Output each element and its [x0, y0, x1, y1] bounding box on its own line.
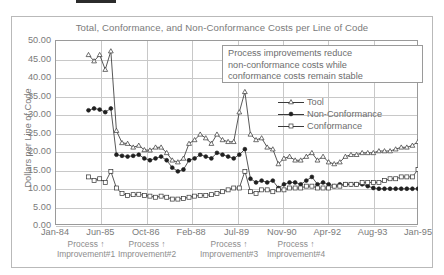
data-point-marker: [114, 128, 119, 132]
annotation-line-1: Process ↑: [200, 239, 258, 249]
x-tick-label: Jan-95: [404, 227, 432, 237]
data-point-marker: [170, 197, 174, 201]
annotation-line-2: Improvement#3: [200, 249, 258, 259]
data-point-marker: [137, 153, 141, 157]
data-point-marker: [316, 182, 320, 186]
legend-label: Non-Conformance: [307, 109, 382, 119]
data-point-marker: [176, 169, 180, 173]
legend-marker-icon: [278, 109, 304, 119]
data-point-marker: [114, 186, 118, 190]
data-point-marker: [187, 195, 191, 199]
data-point-marker: [115, 153, 119, 157]
data-point-marker: [349, 182, 353, 186]
data-point-marker: [131, 154, 135, 158]
data-point-marker: [215, 151, 219, 155]
data-point-marker: [187, 158, 191, 162]
data-point-marker: [259, 136, 264, 140]
chart-title: Total, Conformance, and Non-Conformance …: [0, 22, 444, 33]
data-point-marker: [198, 132, 203, 136]
data-point-marker: [92, 107, 96, 111]
x-tick-label: Feb-88: [177, 227, 206, 237]
data-point-marker: [299, 186, 303, 190]
data-point-marker: [388, 177, 392, 181]
data-point-marker: [103, 110, 107, 114]
data-point-marker: [193, 194, 197, 198]
chart-legend: ToolNon-ConformanceConformance: [278, 96, 398, 132]
data-point-marker: [242, 89, 247, 93]
data-point-marker: [159, 194, 163, 198]
data-point-marker: [405, 187, 409, 191]
data-point-marker: [282, 188, 286, 192]
data-point-marker: [265, 145, 270, 149]
annotation-line-1: Process ↑: [267, 239, 325, 249]
data-point-marker: [360, 180, 364, 184]
data-point-marker: [120, 140, 125, 144]
y-tick-label: 50.00: [0, 35, 51, 45]
data-point-marker: [86, 52, 91, 56]
x-tick-label: Oct-86: [132, 227, 160, 237]
data-point-marker: [221, 190, 225, 194]
data-point-marker: [204, 193, 208, 197]
data-point-marker: [209, 193, 213, 197]
data-point-marker: [165, 158, 169, 162]
callout-line-1: Process improvements reduce: [228, 48, 417, 60]
data-point-marker: [289, 112, 293, 116]
data-point-marker: [232, 186, 236, 190]
x-tick-label: Jun-85: [86, 227, 114, 237]
legend-item[interactable]: Conformance: [278, 120, 398, 132]
process-improvement-annotation: Process ↑Improvement#3: [200, 239, 258, 259]
legend-marker-icon: [278, 97, 304, 107]
annotation-line-2: Improvement#4: [267, 249, 325, 259]
data-point-marker: [131, 193, 135, 197]
x-tick-label: Jul-89: [224, 227, 249, 237]
data-point-marker: [327, 186, 331, 190]
data-point-marker: [382, 179, 386, 183]
x-tick-label: Nov-90: [267, 227, 297, 237]
data-point-marker: [159, 155, 163, 159]
callout-box: Process improvements reduce non-conforma…: [222, 45, 423, 83]
data-point-marker: [366, 180, 370, 184]
data-point-marker: [232, 157, 236, 161]
data-point-marker: [309, 150, 314, 154]
data-point-marker: [187, 141, 192, 145]
data-point-marker: [332, 184, 336, 188]
data-point-marker: [165, 195, 169, 199]
data-point-marker: [416, 168, 418, 172]
callout-line-3: conformance costs remain stable: [228, 71, 417, 83]
x-tick-label: Apr-92: [313, 227, 341, 237]
data-point-marker: [355, 182, 359, 186]
legend-item[interactable]: Non-Conformance: [278, 108, 398, 120]
data-point-marker: [271, 179, 275, 183]
annotation-line-2: Improvement#2: [118, 249, 176, 259]
data-point-marker: [87, 108, 91, 112]
data-point-marker: [137, 192, 141, 196]
data-point-marker: [248, 190, 252, 194]
data-point-marker: [170, 166, 174, 170]
data-point-marker: [109, 107, 113, 111]
callout-line-2: non-conformance costs while: [228, 60, 417, 72]
data-point-marker: [148, 158, 152, 162]
data-point-marker: [142, 193, 146, 197]
data-point-marker: [226, 188, 230, 192]
data-point-marker: [399, 187, 403, 191]
data-point-marker: [97, 52, 102, 56]
data-point-marker: [288, 186, 292, 190]
data-point-marker: [276, 188, 280, 192]
data-point-marker: [260, 188, 264, 192]
legend-item[interactable]: Tool: [278, 96, 398, 108]
x-tick-label: Aug-93: [358, 227, 388, 237]
data-point-marker: [243, 147, 247, 151]
data-point-marker: [120, 192, 124, 196]
data-point-marker: [126, 193, 130, 197]
annotation-line-1: Process ↑: [57, 239, 115, 249]
data-point-marker: [394, 177, 398, 181]
data-point-marker: [416, 139, 418, 143]
data-point-marker: [260, 179, 264, 183]
data-point-marker: [243, 169, 247, 173]
data-point-marker: [289, 124, 293, 128]
data-point-marker: [92, 179, 96, 183]
annotation-line-1: Process ↑: [118, 239, 176, 249]
data-point-marker: [221, 153, 225, 157]
series-conformance: [87, 168, 418, 202]
data-point-marker: [304, 154, 309, 158]
